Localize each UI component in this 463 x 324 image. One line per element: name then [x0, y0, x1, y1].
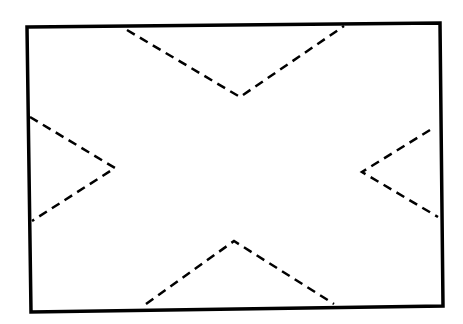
top-fold-line: [127, 26, 344, 97]
bottom-fold-line: [146, 241, 334, 304]
dashed-fold-lines: [30, 26, 438, 304]
outer-rectangle: [27, 23, 443, 312]
right-fold-line: [362, 130, 438, 217]
left-fold-line: [30, 117, 115, 221]
envelope-diagram: [0, 0, 463, 324]
